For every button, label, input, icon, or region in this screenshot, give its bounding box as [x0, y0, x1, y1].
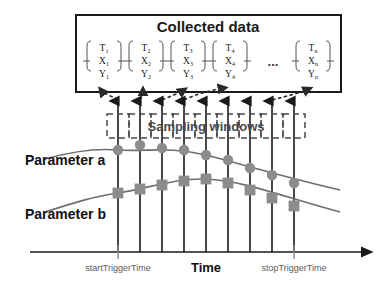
sample-marker-b [245, 185, 256, 196]
time-axis-label: Time [191, 260, 221, 275]
diagram-canvas: Collected data T1 X1 Y1 T2 X2 Y2 [0, 0, 385, 290]
sample-marker-a [157, 143, 167, 153]
sample-marker-a [135, 140, 145, 150]
sampling-windows-label: Sampling windows [147, 119, 264, 134]
sample-marker-b [201, 174, 212, 185]
sample-marker-b [289, 201, 300, 212]
parameter-a-label: Parameter a [25, 152, 105, 168]
parameter-b-label: Parameter b [25, 206, 106, 222]
sample-marker-b [179, 176, 190, 187]
sample-marker-a [245, 163, 255, 173]
sample-marker-b [135, 184, 146, 195]
sample-marker-b [267, 193, 278, 204]
sample-marker-a [223, 155, 233, 165]
sample-marker-b [157, 180, 168, 191]
start-trigger-label: startTriggerTime [85, 263, 150, 273]
sample-marker-b [113, 188, 124, 199]
diagram-svg: Collected data T1 X1 Y1 T2 X2 Y2 [0, 0, 385, 290]
sample-marker-a [267, 170, 277, 180]
sample-marker-a [289, 178, 299, 188]
sample-marker-a [113, 145, 123, 155]
stop-trigger-label: stopTriggerTime [262, 263, 327, 273]
sample-marker-b [223, 178, 234, 189]
vector-ellipsis: ... [268, 54, 279, 69]
sample-marker-a [179, 145, 189, 155]
time-axis [30, 245, 372, 259]
sample-marker-a [201, 150, 211, 160]
collected-data-box: Collected data [76, 15, 341, 92]
collected-data-title: Collected data [157, 18, 260, 35]
